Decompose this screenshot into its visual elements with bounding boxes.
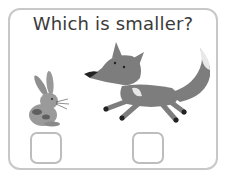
question-title: Which is smaller?: [0, 13, 226, 34]
rabbit-icon: [24, 70, 84, 130]
fox-answer-checkbox[interactable]: [132, 132, 164, 164]
rabbit-answer-checkbox[interactable]: [30, 132, 62, 164]
fox-icon: [82, 38, 218, 124]
